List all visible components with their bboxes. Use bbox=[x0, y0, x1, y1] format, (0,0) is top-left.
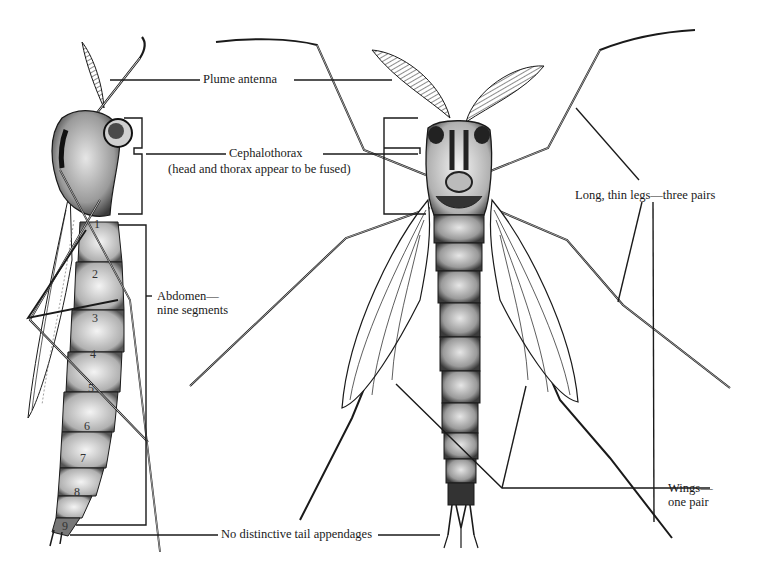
segment-number-4: 4 bbox=[90, 347, 96, 361]
dorsal-abdomen bbox=[434, 215, 484, 548]
label-wings-line2: one pair bbox=[668, 495, 709, 510]
lateral-plume-antenna bbox=[82, 42, 104, 108]
segment-number-6: 6 bbox=[84, 419, 90, 433]
segment-number-9: 9 bbox=[62, 519, 68, 533]
label-abdomen-line1: Abdomen— bbox=[157, 289, 219, 304]
segment-number-8: 8 bbox=[74, 485, 80, 499]
segment-number-7: 7 bbox=[80, 451, 86, 465]
label-legs: Long, thin legs—three pairs bbox=[575, 188, 715, 203]
insect-diagram: 1 2 3 4 5 6 7 8 9 bbox=[0, 0, 757, 578]
segment-number-5: 5 bbox=[88, 381, 94, 395]
label-wings-line1: Wings— bbox=[668, 481, 713, 496]
label-cephalothorax: Cephalothorax bbox=[226, 146, 306, 161]
segment-number-1: 1 bbox=[94, 217, 100, 231]
segment-number-2: 2 bbox=[92, 267, 98, 281]
label-abdomen-line2: nine segments bbox=[157, 303, 228, 318]
label-plume-antenna: Plume antenna bbox=[200, 72, 280, 87]
segment-number-3: 3 bbox=[92, 311, 98, 325]
dorsal-view bbox=[190, 30, 730, 548]
diagram-artwork: 1 2 3 4 5 6 7 8 9 bbox=[0, 0, 757, 578]
label-tail: No distinctive tail appendages bbox=[218, 527, 375, 542]
lateral-view: 1 2 3 4 5 6 7 8 9 bbox=[28, 37, 160, 552]
label-cephalothorax-note: (head and thorax appear to be fused) bbox=[168, 162, 351, 177]
